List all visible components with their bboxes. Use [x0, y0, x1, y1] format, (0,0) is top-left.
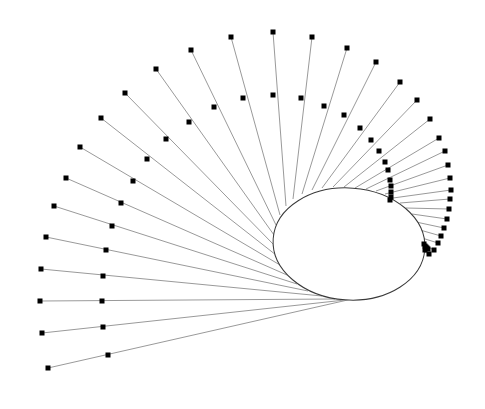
- point-markers: [38, 30, 454, 371]
- middle-point-marker: [101, 274, 106, 279]
- ray-line: [80, 147, 280, 265]
- middle-point-marker: [322, 104, 327, 109]
- outer-point-marker: [398, 80, 403, 85]
- middle-point-marker: [164, 137, 169, 142]
- middle-point-marker: [299, 96, 304, 101]
- outer-point-marker: [64, 176, 69, 181]
- outer-point-marker: [436, 241, 441, 246]
- ray-line: [101, 118, 276, 255]
- middle-point-marker: [423, 248, 428, 253]
- ray-line: [293, 37, 312, 199]
- outer-point-marker: [448, 176, 453, 181]
- middle-point-marker: [110, 224, 115, 229]
- outer-point-marker: [432, 248, 437, 253]
- outer-point-marker: [345, 46, 350, 51]
- outer-point-marker: [442, 226, 447, 231]
- middle-point-marker: [241, 96, 246, 101]
- outer-point-marker: [40, 331, 45, 336]
- outer-point-marker: [447, 207, 452, 212]
- outer-point-marker: [99, 116, 104, 121]
- middle-point-marker: [342, 113, 347, 118]
- middle-point-marker: [388, 178, 393, 183]
- central-ellipse: [269, 183, 428, 305]
- outer-point-marker: [439, 234, 444, 239]
- ray-line: [273, 32, 286, 206]
- outer-point-marker: [52, 204, 57, 209]
- ray-line: [302, 48, 347, 194]
- outer-point-marker: [46, 366, 51, 371]
- middle-point-marker: [386, 168, 391, 173]
- outer-point-marker: [78, 145, 83, 150]
- outer-point-marker: [310, 35, 315, 40]
- outer-point-marker: [189, 48, 194, 53]
- ray-line: [400, 199, 450, 203]
- outer-point-marker: [415, 98, 420, 103]
- outer-point-marker: [443, 149, 448, 154]
- outer-point-marker: [229, 35, 234, 40]
- middle-point-marker: [187, 120, 192, 125]
- outer-point-marker: [154, 67, 159, 72]
- outer-point-marker: [446, 163, 451, 168]
- ray-line: [42, 300, 345, 333]
- ray-line: [125, 93, 274, 245]
- outer-point-marker: [437, 136, 442, 141]
- ray-line: [312, 62, 376, 190]
- middle-point-marker: [212, 105, 217, 110]
- outer-point-marker: [39, 267, 44, 272]
- middle-point-marker: [271, 93, 276, 98]
- ray-line: [66, 178, 287, 275]
- middle-point-marker: [377, 149, 382, 154]
- middle-point-marker: [389, 190, 394, 195]
- ray-line: [393, 190, 451, 198]
- ray-line: [412, 214, 447, 219]
- middle-point-marker: [145, 157, 150, 162]
- middle-point-marker: [358, 126, 363, 131]
- ray-line: [48, 299, 352, 368]
- ray-line: [54, 206, 297, 284]
- middle-point-marker: [101, 325, 106, 330]
- middle-point-marker: [389, 184, 394, 189]
- ray-line: [156, 69, 274, 235]
- middle-point-marker: [100, 299, 105, 304]
- ray-line: [40, 299, 335, 301]
- ray-line: [344, 119, 430, 187]
- outer-point-marker: [448, 197, 453, 202]
- outer-point-marker: [374, 60, 379, 65]
- middle-point-marker: [131, 179, 136, 184]
- outer-point-marker: [449, 188, 454, 193]
- middle-point-marker: [106, 353, 111, 358]
- outer-point-marker: [44, 235, 49, 240]
- middle-point-marker: [119, 201, 124, 206]
- outer-point-marker: [271, 30, 276, 35]
- middle-point-marker: [383, 160, 388, 165]
- middle-point-marker: [104, 248, 109, 253]
- middle-point-marker: [369, 138, 374, 143]
- ray-line: [41, 269, 322, 296]
- tangent-fan-diagram: [0, 0, 485, 409]
- outer-point-marker: [428, 117, 433, 122]
- middle-point-marker: [388, 198, 393, 203]
- outer-point-marker: [445, 217, 450, 222]
- ray-line: [406, 208, 449, 209]
- ray-line: [231, 37, 280, 215]
- outer-point-marker: [123, 91, 128, 96]
- outer-point-marker: [38, 299, 43, 304]
